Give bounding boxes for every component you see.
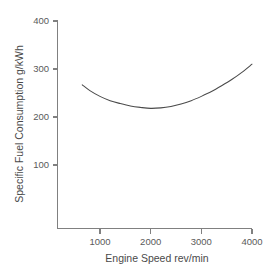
y-axis-ticks: 100200300400 (33, 15, 57, 170)
x-tick-label: 4000 (241, 236, 262, 247)
data-series-line (82, 64, 252, 108)
y-axis-title: Specific Fuel Consumption g/kWh (13, 45, 25, 203)
y-tick-label: 100 (33, 159, 49, 170)
x-tick-label: 1000 (89, 236, 110, 247)
x-axis-title: Engine Speed rev/min (105, 252, 208, 264)
x-axis-ticks: 1000200030004000 (89, 229, 262, 248)
fuel-consumption-line-chart: 100200300400 1000200030004000 Engine Spe… (0, 0, 276, 275)
y-tick-label: 300 (33, 63, 49, 74)
x-tick-label: 2000 (140, 236, 161, 247)
chart-container: 100200300400 1000200030004000 Engine Spe… (0, 0, 276, 275)
y-tick-label: 200 (33, 111, 49, 122)
y-tick-label: 400 (33, 15, 49, 26)
x-tick-label: 3000 (191, 236, 212, 247)
